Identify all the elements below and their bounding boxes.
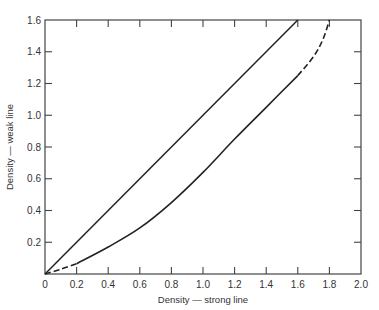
line-straight xyxy=(45,20,298,274)
y-tick-label: 1.2 xyxy=(27,78,41,89)
x-tick-label: 0.8 xyxy=(164,279,178,290)
y-tick-label: 0.2 xyxy=(27,237,41,248)
curve-dashed-end xyxy=(298,20,330,76)
x-tick-label: 1.4 xyxy=(259,279,273,290)
x-tick-label: 1.8 xyxy=(322,279,336,290)
x-tick-label: 1.0 xyxy=(196,279,210,290)
y-tick-label: 1.6 xyxy=(27,15,41,26)
y-tick-label: 0.8 xyxy=(27,142,41,153)
y-tick-label: 0.6 xyxy=(27,173,41,184)
curve-measured xyxy=(77,76,298,264)
y-tick-label: 1.4 xyxy=(27,46,41,57)
y-tick-label: 1.0 xyxy=(27,110,41,121)
x-tick-label: 0.6 xyxy=(133,279,147,290)
y-axis-label: Density — weak line xyxy=(4,104,15,190)
x-tick-label: 0 xyxy=(42,279,48,290)
x-tick-label: 1.2 xyxy=(228,279,242,290)
x-tick-label: 1.6 xyxy=(291,279,305,290)
series-group xyxy=(45,20,329,274)
axis-ticks: 00.20.40.60.81.01.21.41.61.82.00.20.40.6… xyxy=(27,15,368,291)
x-tick-label: 0.2 xyxy=(70,279,84,290)
x-axis-label: Density — strong line xyxy=(158,294,248,305)
x-tick-label: 0.4 xyxy=(101,279,115,290)
x-tick-label: 2.0 xyxy=(354,279,368,290)
plot-frame xyxy=(45,20,361,274)
density-chart: 00.20.40.60.81.01.21.41.61.82.00.20.40.6… xyxy=(0,0,379,310)
y-tick-label: 0.4 xyxy=(27,205,41,216)
